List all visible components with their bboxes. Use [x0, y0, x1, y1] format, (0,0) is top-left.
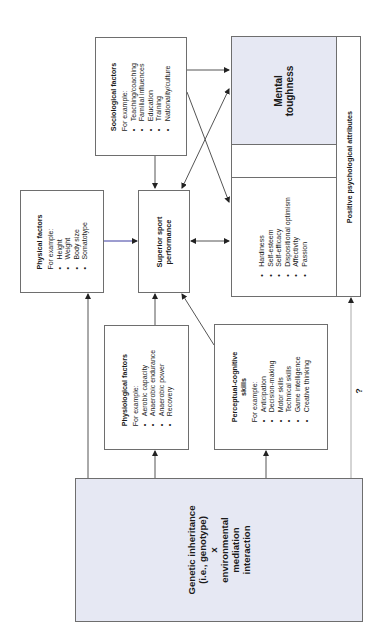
- perceptual-title-line1: Perceptual-cognitive: [230, 352, 239, 423]
- physiological-factors-intro: For example:: [131, 349, 140, 426]
- list-item: Recovery: [165, 349, 174, 426]
- list-item: Passion: [301, 197, 310, 277]
- physical-factors-list: Height Weight Body size Somatotype: [55, 214, 89, 269]
- genetic-line4: environmental: [219, 505, 230, 594]
- list-item: Teaching/coaching: [130, 62, 139, 130]
- uncertain-link-label: ?: [354, 388, 364, 394]
- genetic-line1: Genetic inheritance: [186, 505, 197, 594]
- list-item: Training: [156, 62, 165, 130]
- list-item: Game intelligence: [294, 352, 303, 423]
- perceptual-cognitive-content: Perceptual-cognitive skills For example:…: [230, 352, 311, 423]
- list-item: Height: [55, 214, 64, 269]
- mental-toughness-line2: toughness: [284, 65, 295, 116]
- superior-sport-performance-label: Superior sport performance: [155, 216, 173, 267]
- physiological-factors-content: Physiological factors For example: Aerob…: [119, 349, 174, 426]
- genetic-line3: x: [208, 505, 219, 594]
- genetic-inheritance-box: Genetic inheritance (i.e., genotype) x e…: [75, 478, 363, 622]
- sociological-factors-box: Sociological factors For example: Teachi…: [95, 37, 187, 156]
- list-item: Body size: [72, 214, 81, 269]
- sociological-factors-intro: For example:: [121, 62, 130, 130]
- list-item: Affectivity: [293, 197, 302, 277]
- list-item: Weight: [64, 214, 73, 269]
- list-item: Self-efficacy: [275, 197, 284, 277]
- genetic-line6: interaction: [241, 505, 252, 594]
- positive-attributes-list: Hardiness Self-esteem Self-efficacy Disp…: [258, 197, 310, 277]
- positive-attributes-list-box: Hardiness Self-esteem Self-efficacy Disp…: [231, 177, 337, 297]
- arrow-sociological-to-attributes: [187, 92, 229, 202]
- arrow-performance-mental-toughness: [182, 89, 229, 188]
- positive-attributes-label-strip: Positive psychological attributes: [336, 36, 361, 297]
- genetic-line5: mediation: [230, 505, 241, 594]
- performance-line1: Superior sport: [155, 216, 164, 267]
- list-item: Education: [147, 62, 156, 130]
- perceptual-title-line2: skills: [239, 352, 248, 423]
- sociological-factors-list: Teaching/coaching Familial influences Ed…: [130, 62, 173, 130]
- list-item: Anaerobic endurance: [148, 349, 157, 426]
- physical-factors-title: Physical factors: [35, 214, 44, 269]
- list-item: Technical skills: [286, 352, 295, 423]
- positive-attributes-content: Hardiness Self-esteem Self-efficacy Disp…: [258, 197, 310, 277]
- list-item: Anticipation: [260, 352, 269, 423]
- performance-line2: performance: [164, 216, 173, 267]
- list-item: Nationality/culture: [164, 62, 173, 130]
- list-item: Aerobic capacity: [140, 349, 149, 426]
- perceptual-cognitive-list: Anticipation Decision-making Motor skill…: [260, 352, 312, 423]
- physiological-factors-list: Aerobic capacity Anaerobic endurance Ana…: [140, 349, 174, 426]
- list-item: Familial influences: [138, 62, 147, 130]
- positive-attributes-label: Positive psychological attributes: [345, 110, 354, 222]
- list-item: Dispositional optimism: [284, 197, 293, 277]
- perceptual-cognitive-box: Perceptual-cognitive skills For example:…: [214, 324, 328, 450]
- list-item: Anaerobic power: [157, 349, 166, 426]
- physical-factors-content: Physical factors For example: Height Wei…: [35, 214, 90, 269]
- list-item: Somatotype: [81, 214, 90, 269]
- mental-toughness-label: Mental toughness: [273, 65, 295, 116]
- genetic-inheritance-label: Genetic inheritance (i.e., genotype) x e…: [186, 505, 252, 594]
- perceptual-cognitive-intro: For example:: [251, 352, 260, 423]
- physiological-factors-title: Physiological factors: [119, 349, 128, 426]
- list-item: Decision-making: [269, 352, 278, 423]
- sociological-factors-title: Sociological factors: [109, 62, 118, 130]
- list-item: Motor skills: [277, 352, 286, 423]
- superior-sport-performance-box: Superior sport performance: [138, 190, 190, 293]
- genetic-line2: (i.e., genotype): [197, 505, 208, 594]
- perceptual-cognitive-title: Perceptual-cognitive skills: [230, 352, 248, 423]
- list-item: Hardiness: [258, 197, 267, 277]
- mental-toughness-line1: Mental: [273, 65, 284, 116]
- physical-factors-intro: For example:: [47, 214, 56, 269]
- list-item: Creative thinking: [303, 352, 312, 423]
- physiological-factors-box: Physiological factors For example: Aerob…: [104, 325, 189, 450]
- sociological-factors-content: Sociological factors For example: Teachi…: [109, 62, 173, 130]
- mental-toughness-box: Mental toughness: [231, 36, 337, 145]
- list-item: Self-esteem: [267, 197, 276, 277]
- physical-factors-box: Physical factors For example: Height Wei…: [20, 190, 104, 293]
